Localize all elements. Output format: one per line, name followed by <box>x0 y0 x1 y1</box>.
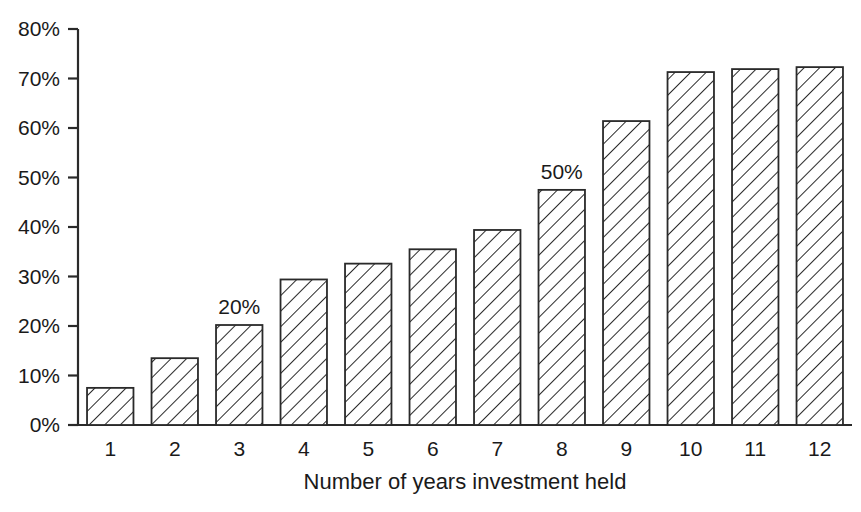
x-axis-tick-label: 4 <box>298 437 310 460</box>
y-axis-tick-label: 30% <box>18 265 60 288</box>
x-axis: 123456789101112 <box>78 425 852 460</box>
chart-canvas: 0%10%20%30%40%50%60%70%80% 1234567891011… <box>0 0 861 512</box>
bar <box>732 69 778 425</box>
y-axis-tick-labels: 0%10%20%30%40%50%60%70%80% <box>18 17 60 436</box>
bar <box>668 72 714 425</box>
bar-value-label: 20% <box>218 295 260 318</box>
y-axis-tick-label: 80% <box>18 17 60 40</box>
x-axis-tick-label: 6 <box>427 437 439 460</box>
x-axis-tick-labels: 123456789101112 <box>104 437 831 460</box>
x-axis-tick-label: 3 <box>233 437 245 460</box>
x-axis-tick-label: 2 <box>169 437 181 460</box>
x-axis-tick-label: 11 <box>744 437 766 460</box>
bar <box>345 264 391 425</box>
y-axis-tick-label: 50% <box>18 166 60 189</box>
bar <box>152 358 198 425</box>
y-axis-tick-label: 60% <box>18 116 60 139</box>
bar <box>410 249 456 425</box>
bar <box>87 388 133 425</box>
y-axis-tick-label: 20% <box>18 314 60 337</box>
x-axis-tick-label: 10 <box>679 437 702 460</box>
y-axis-tick-label: 70% <box>18 67 60 90</box>
x-axis-tick-label: 5 <box>362 437 374 460</box>
x-axis-tick-label: 8 <box>556 437 568 460</box>
bar <box>474 230 520 425</box>
bar <box>603 121 649 425</box>
bar-series <box>87 67 843 425</box>
y-axis: 0%10%20%30%40%50%60%70%80% <box>18 17 78 436</box>
x-axis-tick-label: 7 <box>491 437 503 460</box>
bar-value-label: 50% <box>541 160 583 183</box>
x-axis-title: Number of years investment held <box>304 469 627 494</box>
y-axis-tick-label: 40% <box>18 215 60 238</box>
x-axis-tick-label: 1 <box>104 437 116 460</box>
x-axis-tick-label: 9 <box>620 437 632 460</box>
bar <box>216 325 262 425</box>
bar <box>539 190 585 425</box>
y-axis-tick-marks <box>68 29 78 425</box>
y-axis-tick-label: 0% <box>30 413 60 436</box>
bar-chart-figure: 0%10%20%30%40%50%60%70%80% 1234567891011… <box>0 0 861 512</box>
bar <box>281 279 327 425</box>
bar-value-annotations: 20%50% <box>218 160 583 318</box>
bar <box>797 67 843 425</box>
x-axis-tick-label: 12 <box>808 437 831 460</box>
y-axis-tick-label: 10% <box>18 364 60 387</box>
